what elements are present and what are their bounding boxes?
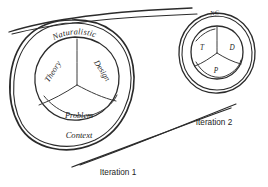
- label-nc: NC: [209, 9, 220, 17]
- label-context: Context: [66, 130, 93, 140]
- label-t: T: [200, 44, 205, 52]
- label-iteration-2: Iteration 2: [196, 118, 233, 127]
- iteration-1-group[interactable]: Naturalistic Context Theory Design Probl…: [10, 20, 137, 177]
- label-design: Design: [92, 58, 112, 83]
- iteration-2-group[interactable]: NC T D P Iteration 2: [179, 9, 255, 127]
- sketch-canvas: Naturalistic Context Theory Design Probl…: [0, 0, 268, 187]
- label-naturalistic: Naturalistic: [50, 27, 97, 42]
- label-iteration-1: Iteration 1: [100, 168, 137, 177]
- label-p: P: [213, 67, 219, 75]
- connector-top: [9, 8, 197, 34]
- label-d: D: [228, 44, 235, 52]
- label-problem: Problem: [64, 111, 93, 120]
- iteration-2-wedge-arcs: [196, 29, 241, 77]
- label-theory: Theory: [43, 59, 63, 84]
